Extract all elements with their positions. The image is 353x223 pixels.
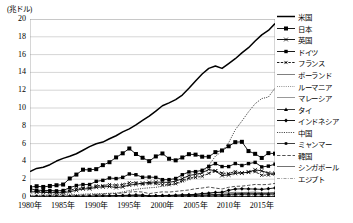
y-axis-tick-label: 10 [4,104,26,112]
legend-item[interactable]: タイ [276,103,353,115]
legend-item[interactable]: 中国 [276,126,353,138]
legend-key-icon [276,57,296,68]
legend-item[interactable]: 日本 [276,23,353,35]
y-axis-tick-label: 8 [4,122,26,130]
legend-key-icon [276,138,296,149]
legend-label: マレーシア [296,92,332,103]
chart-figure: (兆ドル) 02468101214161820 1980年1985年1990年1… [0,0,353,223]
y-axis-unit-label: (兆ドル) [7,3,32,14]
legend-item[interactable]: ポーランド [276,69,353,81]
y-axis-tick-label: 0 [4,193,26,201]
legend-label: ドイツ [296,46,318,57]
legend-label: ルーマニア [296,81,332,92]
legend-label: インドネシア [296,115,338,126]
x-axis-tick-label: 2015年 [242,202,282,210]
legend-label: ポーランド [296,69,332,80]
series-4 [30,161,275,193]
y-axis-tick-label: 16 [4,51,26,59]
legend-key-icon [276,46,296,57]
legend-label: 米国 [296,11,311,22]
legend-item[interactable]: ミャンマー [276,138,353,150]
legend-key-icon [276,81,296,92]
legend-label: タイ [296,104,311,115]
y-axis-tick-label: 2 [4,175,26,183]
legend-key-icon [276,161,296,172]
legend-key-icon [276,127,296,138]
legend-item[interactable]: シンガポール [276,161,353,173]
legend-key-icon [276,69,296,80]
plot-area [30,19,275,197]
legend-key-icon [276,92,296,103]
y-axis-tick-label: 4 [4,157,26,165]
legend-key-icon [276,104,296,115]
y-axis-tick-label: 14 [4,68,26,76]
legend-item[interactable]: 英国 [276,34,353,46]
legend-label: 日本 [296,23,311,34]
legend-label: 韓国 [296,150,311,161]
legend-item[interactable]: エジプト [276,173,353,185]
y-axis-tick-label: 20 [4,15,26,23]
legend-key-icon [276,23,296,34]
series-1 [30,24,275,172]
legend-item[interactable]: インドネシア [276,115,353,127]
y-axis-tick-label: 12 [4,86,26,94]
legend-item[interactable]: ルーマニア [276,80,353,92]
y-axis-tick-label: 18 [4,33,26,41]
legend-item[interactable]: 韓国 [276,150,353,162]
legend-label: ミャンマー [296,138,332,149]
legend-label: シンガポール [296,161,338,172]
legend-item[interactable]: フランス [276,57,353,69]
legend-key-icon [276,150,296,161]
chart-legend: 米国日本英国ドイツフランスポーランドルーマニアマレーシアタイインドネシア中国ミャ… [276,11,353,184]
legend-key-icon [276,11,296,22]
line-chart-svg [30,19,275,197]
legend-label: エジプト [296,173,325,184]
legend-label: フランス [296,57,325,68]
legend-label: 中国 [296,127,311,138]
legend-item[interactable]: ドイツ [276,46,353,58]
legend-label: 英国 [296,34,311,45]
y-axis-tick-label: 6 [4,140,26,148]
legend-key-icon [276,115,296,126]
legend-key-icon [276,173,296,184]
legend-item[interactable]: 米国 [276,11,353,23]
legend-item[interactable]: マレーシア [276,92,353,104]
legend-key-icon [276,34,296,45]
